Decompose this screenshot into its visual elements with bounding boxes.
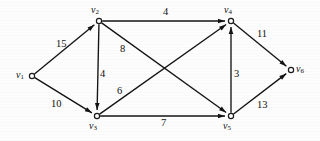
graph-edge-v1-v3 [35,78,92,113]
node-label-subscript-v3: 3 [93,124,97,132]
graph-node-v1 [29,73,34,78]
node-label-v4: v4 [224,5,232,16]
graph-edge-v3-v4 [100,24,226,114]
graph-canvas [0,0,320,141]
node-label-subscript-v5: 5 [227,124,231,132]
edge-weight-v2-v4: 4 [163,7,168,18]
node-label-v5: v5 [223,121,231,132]
arrowhead-v2-v3 [95,103,100,110]
arrowhead-v3-v5 [218,114,225,119]
edge-weight-v5-v6: 13 [257,100,268,111]
arrowhead-v1-v3 [85,107,92,113]
node-label-subscript-v1: 1 [20,73,24,81]
arrowhead-v5-v4 [229,27,234,34]
node-label-subscript-v2: 2 [95,8,99,16]
edge-weight-v2-v5: 8 [120,44,125,55]
node-label-v3: v3 [89,121,97,132]
edge-weight-v4-v6: 11 [257,29,267,40]
edge-weight-v3-v4: 6 [117,86,122,97]
graph-node-v3 [94,113,99,118]
graph-edge-v2-v3 [97,24,99,110]
node-label-subscript-v6: 6 [300,67,304,75]
edge-weight-v3-v5: 7 [161,118,166,129]
nodes-layer [29,18,293,118]
node-label-v1: v1 [16,70,24,81]
edge-weight-v5-v4: 3 [234,69,239,80]
node-label-v2: v2 [91,5,99,16]
node-label-v6: v6 [296,64,304,75]
node-label-subscript-v4: 4 [228,8,232,16]
graph-node-v5 [228,113,233,118]
edge-weight-v1-v2: 15 [56,39,67,50]
graph-node-v4 [228,18,233,23]
edges-layer [34,19,286,119]
edge-weight-v1-v3: 10 [51,99,62,110]
arrowhead-v2-v4 [218,19,225,24]
graph-figure: 15104486731113v1v2v3v4v5v6 [0,0,320,141]
graph-node-v2 [96,18,101,23]
graph-node-v6 [288,67,293,72]
edge-weight-v2-v3: 4 [100,69,105,80]
